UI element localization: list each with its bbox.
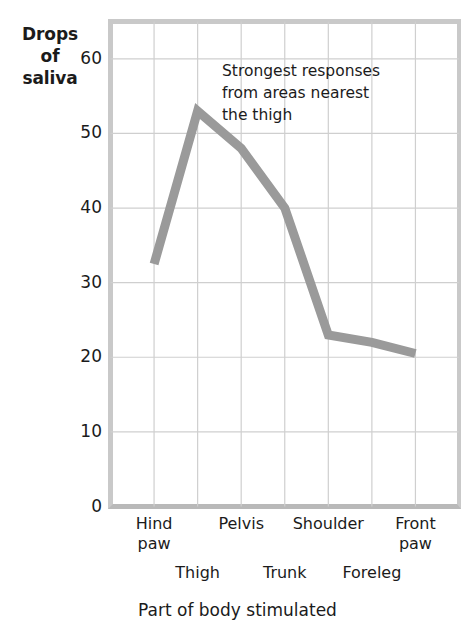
y-tick-label: 0 [58,498,102,515]
x-tick-label-hind-paw: Hind paw [136,514,173,553]
x-tick-label-trunk: Trunk [263,563,307,583]
chart-annotation: Strongest responses from areas nearest t… [222,60,380,126]
x-tick-label-thigh: Thigh [175,563,220,583]
y-tick-label: 40 [58,199,102,216]
x-tick-label-hind-paw-line-1: Hind [136,514,173,534]
x-tick-label-front-paw-line-2: paw [395,534,435,554]
chart-annotation-line-2: from areas nearest [222,82,380,104]
x-tick-label-pelvis: Pelvis [218,514,264,534]
y-tick-label: 20 [58,348,102,365]
x-tick-label-shoulder: Shoulder [293,514,364,534]
chart-annotation-line-1: Strongest responses [222,60,380,82]
saliva-response-line-chart: Drops of saliva 60 50 40 30 20 10 0 Stro… [0,0,475,637]
y-tick-label: 10 [58,423,102,440]
y-tick-label: 30 [58,274,102,291]
x-axis-title: Part of body stimulated [0,600,475,620]
chart-annotation-line-3: the thigh [222,104,380,126]
x-tick-label-foreleg: Foreleg [342,563,401,583]
y-tick-labels: 60 50 40 30 20 10 0 [50,0,102,637]
x-tick-label-front-paw-line-1: Front [395,514,435,534]
y-tick-label: 50 [58,124,102,141]
y-tick-label: 60 [58,50,102,67]
x-tick-label-front-paw: Front paw [395,514,435,553]
x-tick-label-hind-paw-line-2: paw [136,534,173,554]
